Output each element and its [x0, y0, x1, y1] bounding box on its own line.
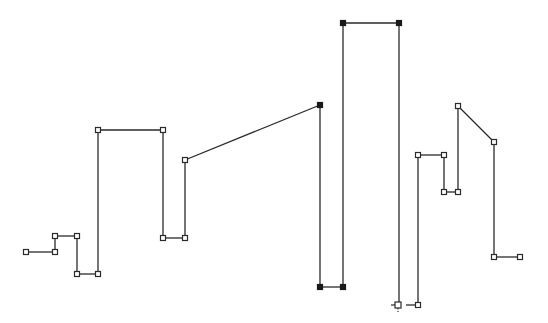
vertex-handle[interactable] [183, 236, 188, 241]
polyline-segment[interactable] [185, 105, 320, 160]
selected-vertex-handle[interactable] [318, 103, 323, 108]
drawing-canvas[interactable] [0, 0, 548, 323]
vertex-handle[interactable] [24, 250, 29, 255]
vertex-handle[interactable] [161, 128, 166, 133]
vertex-handle[interactable] [416, 303, 421, 308]
selected-vertex-handle[interactable] [318, 285, 323, 290]
vertex-handle[interactable] [456, 104, 461, 109]
vertex-handle[interactable] [442, 153, 447, 158]
vertex-handle[interactable] [53, 234, 58, 239]
vertex-handle[interactable] [416, 153, 421, 158]
vertex-handle[interactable] [442, 190, 447, 195]
selected-vertex-handle[interactable] [397, 21, 402, 26]
vertex-handle[interactable] [53, 250, 58, 255]
vertex-handle[interactable] [492, 140, 497, 145]
selected-vertex-handle[interactable] [341, 285, 346, 290]
vertex-handle[interactable] [96, 128, 101, 133]
crosshair-cursor-icon [391, 302, 401, 312]
vertex-handle[interactable] [183, 158, 188, 163]
polyline-segments[interactable] [26, 23, 520, 305]
polyline-segment[interactable] [458, 106, 494, 142]
vertex-handle[interactable] [492, 255, 497, 260]
vertex-handle[interactable] [96, 272, 101, 277]
vertex-handle[interactable] [456, 190, 461, 195]
vertex-handle[interactable] [75, 272, 80, 277]
vertex-handle[interactable] [518, 255, 523, 260]
selected-vertex-handle[interactable] [341, 21, 346, 26]
vertex-handle[interactable] [161, 236, 166, 241]
vertex-handle[interactable] [75, 234, 80, 239]
